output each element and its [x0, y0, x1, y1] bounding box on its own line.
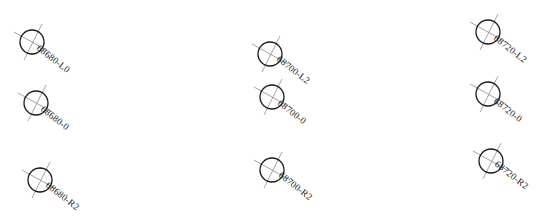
diagram-canvas: 68680-L0 68680-0 68680-R2 68700-L2 [0, 0, 550, 218]
